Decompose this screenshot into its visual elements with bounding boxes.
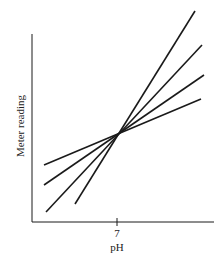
x-tick-label: 7 (114, 227, 120, 239)
y-axis-label: Meter reading (14, 95, 26, 157)
x-axis-label: pH (110, 241, 123, 253)
series-line-4 (44, 99, 201, 165)
series-line-3 (44, 75, 204, 185)
series-line-1 (75, 11, 195, 204)
data-lines (44, 11, 204, 212)
chart-plot (0, 0, 223, 263)
series-line-2 (46, 45, 202, 212)
